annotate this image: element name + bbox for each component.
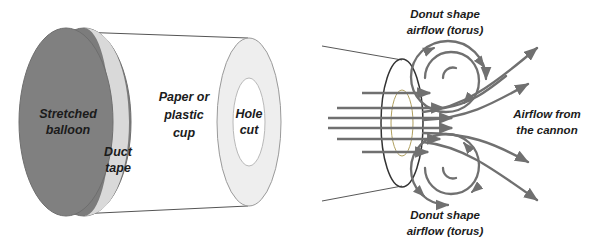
donut-top-label-line1: Donut shape bbox=[410, 8, 480, 20]
stretched-balloon-label-line1: Stretched bbox=[39, 107, 97, 121]
stretched-balloon-label-line2: balloon bbox=[46, 123, 91, 137]
airflow-cannon-label-line2: the cannon bbox=[516, 124, 577, 136]
airflow-cannon-label-line1: Airflow from bbox=[512, 108, 581, 120]
paper-cup-label-line1: Paper or bbox=[159, 90, 211, 104]
cup-hole-ellipse bbox=[233, 78, 265, 166]
diagram-canvas: Stretched balloon Duct tape Paper or pla… bbox=[0, 0, 600, 245]
hole-cut-label-line1: Hole bbox=[235, 107, 262, 121]
hole-cut-label-line2: cut bbox=[240, 123, 260, 137]
donut-bottom-label-line2: airflow (torus) bbox=[407, 225, 484, 237]
duct-tape-label-line1: Duct bbox=[104, 145, 133, 159]
paper-cup-label-line3: cup bbox=[173, 126, 196, 140]
duct-tape-label-line2: tape bbox=[105, 161, 131, 175]
donut-top-label-line2: airflow (torus) bbox=[407, 24, 484, 36]
stretched-balloon-face bbox=[19, 28, 113, 216]
balloon-assembly bbox=[19, 28, 131, 216]
paper-cup-label-line2: plastic bbox=[163, 108, 204, 122]
cup-front-rim bbox=[217, 38, 281, 206]
donut-bottom-label-line1: Donut shape bbox=[410, 209, 480, 221]
